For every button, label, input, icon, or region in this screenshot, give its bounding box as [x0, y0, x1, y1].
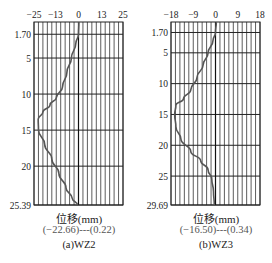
x-tick-label: 25: [118, 10, 128, 20]
x-tick-label: 9: [235, 10, 240, 20]
y-tick-label: 1.70: [151, 28, 168, 38]
y-tick-label: 10: [22, 90, 32, 100]
x-tick-label: 13: [97, 10, 107, 20]
x-tick-label: −25: [27, 10, 42, 20]
x-tick-label: 18: [255, 10, 265, 20]
y-tick-label: 15: [159, 110, 169, 120]
y-tick-label: 20: [22, 162, 32, 172]
displacement-curve: [175, 22, 217, 205]
y-tick-label: 25: [159, 172, 169, 182]
x-tick-label: −18: [164, 10, 179, 20]
y-tick-label: 5: [163, 48, 168, 58]
chart-a-title: (a)WZ2: [11, 239, 147, 250]
y-tick-label: 10: [159, 79, 169, 89]
y-tick-label: 20: [159, 141, 169, 151]
chart-a-range: (−22.66)---(0.22): [11, 224, 147, 235]
x-tick-label: −13: [48, 10, 63, 20]
y-tick-label: 15: [22, 126, 32, 136]
chart-b-range: (−16.50)---(0.34): [148, 224, 272, 235]
chart-b-title: (b)WZ3: [148, 239, 272, 250]
y-tick-label: 5: [26, 54, 31, 64]
y-tick-label: 1.70: [14, 30, 31, 40]
displacement-curve: [38, 22, 79, 205]
x-tick-label: −9: [188, 10, 198, 20]
x-tick-label: 0: [76, 10, 81, 20]
y-tick-label: 29.69: [147, 201, 169, 211]
x-tick-label: 0: [213, 10, 218, 20]
y-tick-label: 25.39: [10, 201, 32, 211]
